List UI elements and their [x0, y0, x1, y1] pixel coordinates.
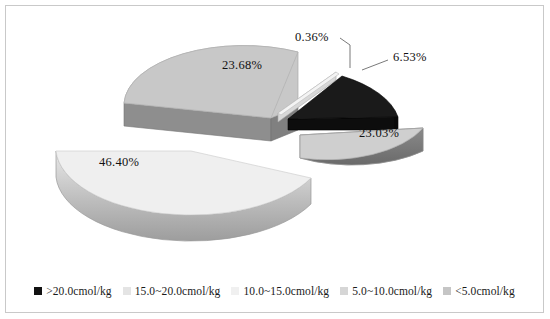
slice-label-15-20: 0.36% [295, 30, 329, 45]
legend-item-5-10[interactable]: 5.0~10.0cmol/kg [340, 285, 432, 297]
chart-legend: >20.0cmol/kg 15.0~20.0cmol/kg 10.0~15.0c… [6, 276, 543, 306]
pie-slice-10-15[interactable] [124, 46, 298, 141]
legend-item-lt5[interactable]: <5.0cmol/kg [443, 285, 515, 297]
legend-swatch-10-15 [231, 287, 239, 295]
slice-label-10-15: 23.68% [222, 58, 262, 73]
slice-label-gt20: 6.53% [393, 50, 427, 65]
leader-line-653 [362, 60, 388, 70]
pie-chart-graphic [6, 6, 543, 268]
legend-label-10-15: 10.0~15.0cmol/kg [243, 285, 329, 297]
legend-label-15-20: 15.0~20.0cmol/kg [135, 285, 221, 297]
legend-swatch-gt20 [34, 287, 42, 295]
legend-item-10-15[interactable]: 10.0~15.0cmol/kg [231, 285, 329, 297]
slice-label-lt5: 23.03% [359, 126, 399, 141]
legend-swatch-lt5 [443, 287, 451, 295]
legend-item-15-20[interactable]: 15.0~20.0cmol/kg [123, 285, 221, 297]
legend-label-5-10: 5.0~10.0cmol/kg [352, 285, 432, 297]
slice-label-5-10: 46.40% [99, 155, 139, 170]
legend-item-gt20[interactable]: >20.0cmol/kg [34, 285, 112, 297]
legend-swatch-5-10 [340, 287, 348, 295]
leader-line-036 [340, 38, 350, 68]
legend-label-gt20: >20.0cmol/kg [46, 285, 112, 297]
pie-chart-figure: 23.68% 46.40% 23.03% 0.36% 6.53% >20.0cm… [0, 0, 550, 319]
legend-label-lt5: <5.0cmol/kg [455, 285, 515, 297]
plot-area: 23.68% 46.40% 23.03% 0.36% 6.53% [6, 6, 543, 268]
pie-slice-5-0-10[interactable] [56, 151, 311, 241]
legend-swatch-15-20 [123, 287, 131, 295]
